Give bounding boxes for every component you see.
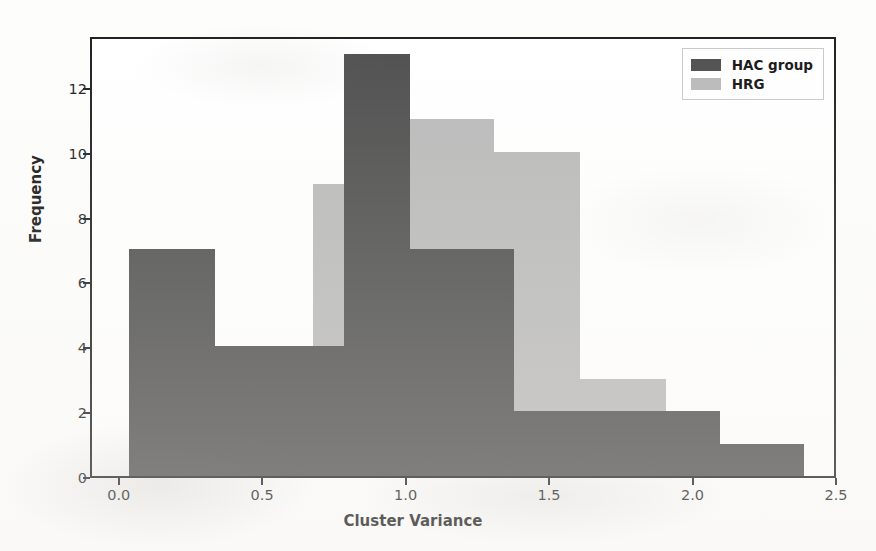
bar-hac-2.09 [720, 444, 803, 476]
y-tick-label: 0 [78, 470, 87, 486]
x-tick-label: 1.0 [394, 487, 417, 503]
y-tick-label: 2 [78, 405, 87, 421]
y-axis-label: Frequency [27, 119, 45, 279]
bar-hac-1.37 [514, 411, 637, 476]
x-tick-label: 2.5 [824, 487, 847, 503]
bar-hac-0.78 [344, 54, 410, 476]
x-tick-mark [835, 478, 837, 485]
bar-hac-0.63 [301, 346, 344, 476]
bar-hac-1.01 [410, 249, 513, 476]
chart-legend: HAC groupHRG [682, 48, 824, 100]
chart-figure: Frequency 024681012 0.00.51.01.52.02.5 C… [0, 0, 876, 551]
y-tick-label: 10 [69, 146, 87, 162]
x-tick-mark [405, 478, 407, 485]
bar-hac-0.03 [129, 249, 215, 476]
legend-label: HAC group [732, 57, 813, 73]
legend-swatch-icon [691, 59, 721, 71]
y-tick-label: 4 [78, 340, 87, 356]
legend-swatch-icon [691, 78, 721, 90]
legend-item: HRG [691, 74, 813, 93]
plot-area: HAC groupHRG [90, 37, 836, 478]
x-axis-label-text: Cluster Variance [343, 512, 482, 530]
plot-inner [92, 39, 834, 476]
x-tick-label: 1.5 [538, 487, 561, 503]
x-tick-mark [261, 478, 263, 485]
bar-hac-0.33 [215, 346, 301, 476]
x-tick-label: 0.5 [251, 487, 274, 503]
y-tick-label: 8 [78, 211, 87, 227]
legend-item: HAC group [691, 55, 813, 74]
legend-label: HRG [732, 76, 765, 92]
x-tick-label: 0.0 [107, 487, 130, 503]
y-tick-label: 12 [69, 81, 87, 97]
bar-hac-1.8 [637, 411, 720, 476]
x-tick-mark [692, 478, 694, 485]
y-tick-label: 6 [78, 275, 87, 291]
x-tick-mark [548, 478, 550, 485]
x-tick-mark [118, 478, 120, 485]
x-tick-label: 2.0 [681, 487, 704, 503]
x-axis-label: Cluster Variance [0, 512, 876, 530]
